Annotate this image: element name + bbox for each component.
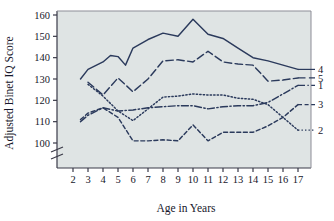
- series-label-2: 2: [318, 125, 323, 136]
- x-tick-label: 3: [85, 174, 90, 185]
- y-tick-label: 130: [34, 74, 50, 85]
- x-axis-title: Age in Years: [156, 202, 216, 215]
- y-axis-tick-labels: 100110120130140150160: [34, 10, 50, 149]
- x-tick-label: 8: [160, 174, 165, 185]
- x-tick-label: 17: [293, 174, 304, 185]
- x-tick-label: 5: [115, 174, 120, 185]
- x-tick-label: 2: [70, 174, 75, 185]
- series-label-5: 5: [318, 73, 323, 84]
- x-tick-label: 7: [145, 174, 150, 185]
- y-tick-label: 150: [34, 31, 50, 42]
- y-tick-label: 120: [34, 95, 50, 106]
- x-tick-label: 15: [263, 174, 274, 185]
- line-chart: 100110120130140150160 234567891011121314…: [0, 0, 334, 221]
- x-tick-label: 14: [248, 174, 259, 185]
- series-label-3: 3: [318, 99, 323, 110]
- x-tick-label: 13: [233, 174, 244, 185]
- y-axis-title: Adjusted Binet IQ Score: [3, 36, 16, 149]
- x-tick-label: 11: [203, 174, 213, 185]
- chart-container: 100110120130140150160 234567891011121314…: [0, 0, 334, 221]
- x-tick-label: 12: [218, 174, 229, 185]
- x-tick-label: 10: [188, 174, 199, 185]
- x-tick-label: 6: [130, 174, 135, 185]
- x-tick-label: 9: [175, 174, 180, 185]
- y-tick-label: 100: [34, 138, 50, 149]
- y-tick-label: 110: [35, 116, 50, 127]
- x-tick-label: 4: [100, 174, 106, 185]
- y-tick-label: 140: [34, 52, 50, 63]
- y-tick-label: 160: [34, 10, 50, 21]
- x-axis-tick-labels: 234567891011121314151617: [70, 174, 303, 185]
- x-tick-label: 16: [278, 174, 289, 185]
